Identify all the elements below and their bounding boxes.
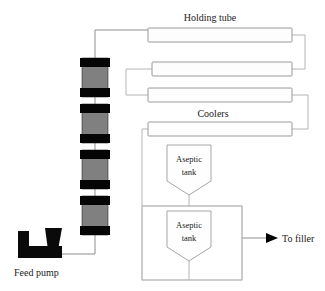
connector-holding-tube-to-cooler2 [292, 35, 305, 69]
heat-exchanger-1 [80, 58, 110, 97]
pipe-holding-tube [148, 28, 292, 42]
heat-exchanger-2 [80, 104, 110, 143]
feed-pump [18, 228, 62, 258]
label-feed-pump: Feed pump [14, 267, 59, 278]
connector-cooler3-to-cooler4 [292, 95, 308, 129]
pipe-cooler-3 [148, 88, 292, 102]
to-filler-arrow-icon [266, 233, 278, 243]
pipe-cooler-2 [152, 62, 292, 76]
label-aseptic-tank-lower-line1: Aseptic [176, 220, 202, 230]
connector-hx-to-holding-tube [95, 30, 148, 58]
connector-pump-to-exchangers [62, 235, 95, 254]
process-flow-diagram: Holding tube Coolers Aseptic tank Asepti… [0, 0, 325, 291]
label-to-filler: To filler [282, 233, 315, 244]
heat-exchanger-3 [80, 150, 110, 189]
pipe-cooler-4 [148, 122, 292, 136]
label-holding-tube: Holding tube [184, 12, 237, 23]
label-aseptic-tank-lower-line2: tank [182, 233, 197, 243]
heat-exchanger-4 [80, 196, 110, 235]
label-aseptic-tank-upper-line1: Aseptic [176, 154, 202, 164]
connector-cooler4-downcomer [142, 129, 148, 280]
label-coolers: Coolers [197, 108, 228, 119]
diagram-canvas: Holding tube Coolers Aseptic tank Asepti… [0, 0, 325, 291]
label-aseptic-tank-upper-line2: tank [182, 167, 197, 177]
